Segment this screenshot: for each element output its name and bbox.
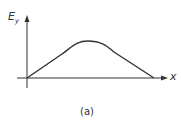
x-axis-arrow-icon <box>161 76 168 81</box>
y-axis-arrow-icon <box>25 15 30 22</box>
y-axis-label: Ey <box>8 10 19 25</box>
figure: Ey x (a) <box>0 0 181 136</box>
ey-curve <box>27 41 154 78</box>
x-axis-label: x <box>170 70 177 83</box>
figure-caption: (a) <box>80 106 94 117</box>
